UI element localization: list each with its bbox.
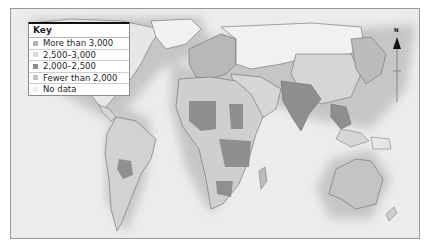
swatch-icon xyxy=(33,52,38,57)
swatch-icon xyxy=(33,87,38,92)
key-item-label: 2,500–3,000 xyxy=(43,51,96,60)
swatch-icon xyxy=(33,75,38,80)
key-item-label: More than 3,000 xyxy=(43,39,113,48)
map-key: Key More than 3,000 2,500–3,000 2,000–2,… xyxy=(28,22,130,96)
key-item-more-than-3000: More than 3,000 xyxy=(29,38,129,50)
swatch-icon xyxy=(33,64,38,69)
key-item-no-data: No data xyxy=(29,84,129,95)
key-item-fewer-than-2000: Fewer than 2,000 xyxy=(29,73,129,85)
key-item-label: No data xyxy=(43,85,76,94)
key-item-2000-2500: 2,000–2,500 xyxy=(29,61,129,73)
north-arrow-icon: N xyxy=(391,27,403,102)
key-item-2500-3000: 2,500–3,000 xyxy=(29,50,129,62)
swatch-icon xyxy=(33,41,38,46)
key-item-label: Fewer than 2,000 xyxy=(43,74,117,83)
key-title: Key xyxy=(29,24,129,38)
key-item-label: 2,000–2,500 xyxy=(43,62,96,71)
